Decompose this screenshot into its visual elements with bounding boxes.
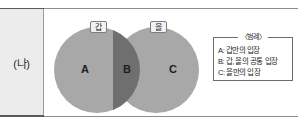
diagram-cell: A B C 갑 을 〈범례〉 A: 갑만의 입장 B: 갑, 을의 공통 입장 … [45,9,298,116]
legend-item: B: 갑, 을의 공통 입장 [218,56,289,67]
set-b-tag: 을 [150,21,167,33]
set-a-tag: 갑 [90,21,107,33]
row-label-text: (나) [13,55,29,71]
table-rule-bottom-left-cap [0,115,44,117]
legend-item: A: 갑만의 입장 [218,45,289,56]
legend-item: C: 을만의 입장 [218,67,289,78]
venn-region-label-c: C [169,63,177,75]
table-rule-bottom [0,116,298,117]
row-label-cell: (나) [0,9,44,116]
venn-region-label-b: B [123,63,131,75]
venn-region-label-a: A [81,63,89,75]
legend-title: 〈범례〉 [238,32,268,41]
legend-items: A: 갑만의 입장 B: 갑, 을의 공통 입장 C: 을만의 입장 [218,45,289,78]
figure-row: (나) A B C 갑 을 〈범례〉 A: 갑만의 입장 B: 갑, 을의 공통… [0,0,298,126]
legend-box: 〈범례〉 A: 갑만의 입장 B: 갑, 을의 공통 입장 C: 을만의 입장 [213,37,293,81]
